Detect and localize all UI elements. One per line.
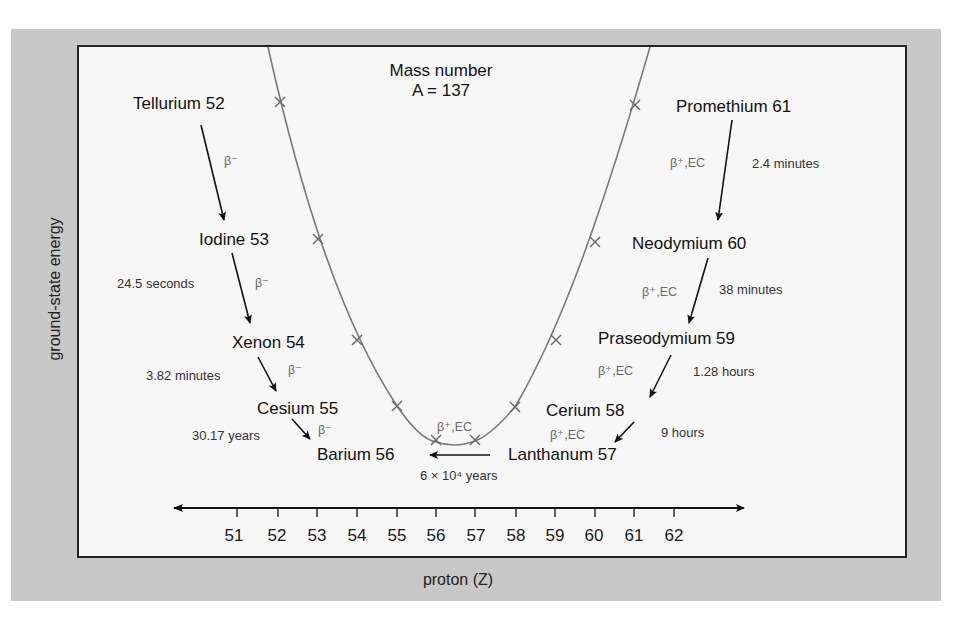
title-line2: A = 137 [412,81,470,100]
mode-i-xe: β⁻ [255,276,269,290]
mode-te-i: β⁻ [224,154,238,168]
y-axis-title: ground-state energy [46,217,63,360]
tick-label: 55 [388,526,407,545]
mode-ce-la: β⁺,EC [550,428,585,442]
halflife-neodymium: 38 minutes [719,282,783,297]
isotope-lanthanum: Lanthanum 57 [508,445,617,464]
halflife-praseodymium: 1.28 hours [693,364,755,379]
tick-label: 57 [467,526,486,545]
isotope-neodymium: Neodymium 60 [632,234,746,253]
isotope-cesium: Cesium 55 [257,399,338,418]
tick-label: 59 [546,526,565,545]
x-axis-title: proton (Z) [423,571,493,588]
isotope-promethium: Promethium 61 [676,97,791,116]
halflife-xenon: 3.82 minutes [146,368,221,383]
mode-la-ba: β⁺,EC [437,420,472,434]
tick-label: 51 [225,526,244,545]
diagram-canvas: ground-state energy proton (Z) Mass numb… [0,0,973,626]
tick-label: 56 [427,526,446,545]
halflife-cesium: 30.17 years [192,428,260,443]
isotope-praseodymium: Praseodymium 59 [598,329,735,348]
halflife-lanthanum: 6 × 10⁴ years [420,468,498,483]
tick-label: 60 [585,526,604,545]
tick-label: 52 [268,526,287,545]
isotope-iodine: Iodine 53 [199,230,269,249]
halflife-promethium: 2.4 minutes [752,156,820,171]
tick-label: 53 [308,526,327,545]
title-line1: Mass number [390,61,493,80]
mode-nd-pr: β⁺,EC [642,285,677,299]
mode-pr-ce: β⁺,EC [598,364,633,378]
tick-label: 58 [507,526,526,545]
tick-label: 61 [625,526,644,545]
halflife-cerium: 9 hours [661,425,705,440]
isotope-xenon: Xenon 54 [232,333,305,352]
mode-xe-cs: β⁻ [288,363,302,377]
halflife-iodine: 24.5 seconds [117,276,195,291]
tick-label: 54 [348,526,367,545]
isotope-cerium: Cerium 58 [546,401,624,420]
mode-cs-ba: β⁻ [318,423,332,437]
isotope-barium: Barium 56 [317,445,394,464]
tick-label: 62 [665,526,684,545]
isotope-tellurium: Tellurium 52 [133,94,225,113]
mode-pm-nd: β⁺,EC [670,156,705,170]
